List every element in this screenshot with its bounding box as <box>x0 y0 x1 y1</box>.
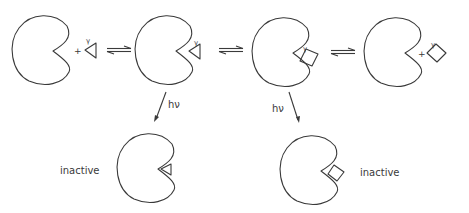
ligand-label-3: γ <box>303 45 307 53</box>
square-ligand-4: γ <box>427 41 446 62</box>
photolysis-arrow-2: hν <box>272 92 300 123</box>
inactive-label-1: inactive <box>60 165 100 176</box>
receptor-free-2 <box>364 18 422 87</box>
inactive-square-complex <box>280 136 344 205</box>
equilibrium-arrow-3 <box>331 48 355 56</box>
plus-sign-1: + <box>74 46 82 56</box>
triangle-ligand-1: γ <box>85 37 96 58</box>
receptor-triangle-complex: γ <box>135 16 200 85</box>
ligand-label-2: γ <box>194 39 198 47</box>
ligand-label-1: γ <box>86 37 90 45</box>
ligand-label-4: γ <box>431 41 435 49</box>
reaction-scheme: + γ γ γ + γ <box>0 0 469 213</box>
inactive-triangle-complex <box>117 134 175 203</box>
photolysis-arrow-1: hν <box>154 92 180 122</box>
hv-label-2: hν <box>272 103 284 114</box>
equilibrium-arrow-1 <box>107 46 131 54</box>
equilibrium-arrow-2 <box>219 46 243 54</box>
receptor-free-1 <box>12 16 70 85</box>
plus-sign-2: + <box>418 49 426 59</box>
receptor-square-complex: γ <box>252 18 318 87</box>
hv-label-1: hν <box>168 99 180 110</box>
inactive-label-2: inactive <box>360 167 400 178</box>
